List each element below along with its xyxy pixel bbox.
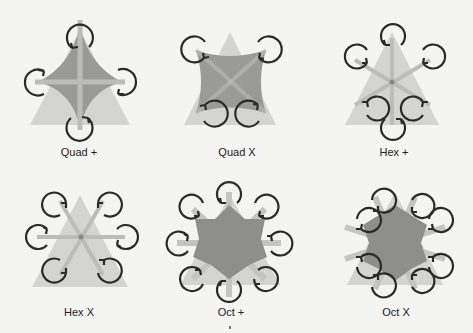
stray-mark bbox=[229, 326, 231, 329]
rotor-icon bbox=[423, 45, 445, 69]
config-hex-plus: Hex + bbox=[315, 0, 473, 166]
multirotor-configuration-diagram: Quad + Quad X bbox=[0, 0, 473, 333]
config-label: Quad + bbox=[0, 146, 158, 158]
config-hex-x: Hex X bbox=[0, 167, 158, 333]
quad-x-figure bbox=[158, 0, 316, 166]
config-label: Oct X bbox=[317, 306, 473, 318]
center-hub bbox=[79, 235, 84, 240]
config-label: Hex X bbox=[0, 306, 158, 318]
hex-plus-figure bbox=[315, 0, 473, 166]
config-label: Quad X bbox=[158, 146, 316, 158]
config-label: Oct + bbox=[152, 306, 310, 318]
config-oct-x: Oct X bbox=[315, 167, 473, 333]
config-label: Hex + bbox=[315, 146, 473, 158]
config-oct-plus: Oct + bbox=[155, 167, 313, 333]
config-quad-plus: Quad + bbox=[0, 0, 158, 166]
config-quad-x: Quad X bbox=[158, 0, 316, 166]
quad-plus-figure bbox=[0, 0, 158, 166]
center-hub bbox=[390, 80, 395, 85]
